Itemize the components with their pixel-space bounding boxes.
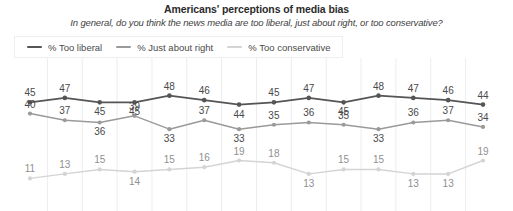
- line-swatch-icon: [27, 46, 42, 48]
- data-point[interactable]: [376, 93, 381, 98]
- data-point[interactable]: [481, 125, 485, 129]
- data-point-label: 44: [234, 109, 246, 120]
- data-point-label: 39: [129, 101, 141, 112]
- data-point-label: 47: [303, 83, 315, 94]
- data-point-label: 36: [94, 126, 106, 137]
- data-point-label: 36: [303, 107, 315, 118]
- data-point-label: 13: [303, 178, 315, 189]
- data-point[interactable]: [376, 127, 380, 131]
- data-point[interactable]: [307, 120, 311, 124]
- data-point-label: 15: [338, 154, 350, 165]
- data-point[interactable]: [98, 167, 102, 171]
- data-point[interactable]: [306, 96, 311, 101]
- legend-item-too-liberal[interactable]: % Too liberal: [27, 42, 102, 53]
- plot-area: 4547454548464445474548474644403736393337…: [0, 58, 513, 211]
- data-point[interactable]: [272, 161, 276, 165]
- data-point-label: 18: [268, 148, 280, 159]
- data-point-label: 34: [477, 112, 489, 123]
- data-point-label: 44: [477, 90, 489, 101]
- line-swatch-icon: [116, 46, 131, 48]
- data-point-label: 47: [408, 83, 420, 94]
- data-point[interactable]: [272, 100, 277, 105]
- data-point-label: 48: [373, 81, 385, 92]
- data-point-label: 37: [199, 105, 211, 116]
- data-point[interactable]: [341, 100, 346, 105]
- plot-svg: 4547454548464445474548474644403736393337…: [0, 58, 513, 211]
- data-point-label: 45: [268, 87, 280, 98]
- data-point[interactable]: [481, 158, 485, 162]
- legend-label-too-liberal: % Too liberal: [48, 42, 102, 53]
- data-point[interactable]: [28, 176, 32, 180]
- data-point[interactable]: [237, 102, 242, 107]
- data-point-label: 33: [234, 133, 246, 144]
- line-swatch-icon: [227, 46, 242, 48]
- data-point-label: 13: [443, 178, 455, 189]
- data-point[interactable]: [342, 123, 346, 127]
- data-point[interactable]: [28, 111, 32, 115]
- data-point-label: 40: [24, 99, 36, 110]
- data-point[interactable]: [446, 172, 450, 176]
- data-point[interactable]: [237, 127, 241, 131]
- data-point[interactable]: [167, 167, 171, 171]
- data-point-label: 35: [338, 110, 350, 121]
- legend-item-just-about-right[interactable]: % Just about right: [116, 42, 213, 53]
- media-bias-line-chart: Americans' perceptions of media bias In …: [0, 0, 513, 211]
- data-point-label: 19: [477, 146, 489, 157]
- data-point[interactable]: [97, 100, 102, 105]
- data-point[interactable]: [98, 120, 102, 124]
- data-point-label: 15: [164, 154, 176, 165]
- data-point-label: 33: [373, 133, 385, 144]
- data-point-label: 15: [373, 154, 385, 165]
- data-point[interactable]: [376, 167, 380, 171]
- data-point[interactable]: [411, 172, 415, 176]
- data-point[interactable]: [307, 172, 311, 176]
- legend-label-too-conservative: % Too conservative: [248, 42, 330, 53]
- data-point-label: 36: [408, 107, 420, 118]
- data-point[interactable]: [446, 118, 450, 122]
- chart-legend: % Too liberal % Just about right % Too c…: [14, 36, 343, 58]
- data-point[interactable]: [342, 167, 346, 171]
- data-point-label: 16: [199, 152, 211, 163]
- data-point-label: 37: [443, 105, 455, 116]
- data-point[interactable]: [202, 118, 206, 122]
- data-point-label: 19: [234, 146, 246, 157]
- data-point[interactable]: [63, 118, 67, 122]
- chart-title: Americans' perceptions of media bias: [0, 3, 513, 15]
- data-point-label: 46: [443, 85, 455, 96]
- legend-label-just-about-right: % Just about right: [137, 42, 213, 53]
- data-point-label: 35: [268, 110, 280, 121]
- data-point-label: 33: [164, 133, 176, 144]
- data-point[interactable]: [132, 170, 136, 174]
- data-point[interactable]: [167, 127, 171, 131]
- data-point[interactable]: [272, 123, 276, 127]
- data-point-label: 15: [94, 154, 106, 165]
- data-point[interactable]: [202, 165, 206, 169]
- data-point-label: 13: [408, 178, 420, 189]
- data-point-label: 47: [59, 83, 71, 94]
- data-point-label: 14: [129, 176, 141, 187]
- data-point[interactable]: [63, 172, 67, 176]
- data-point[interactable]: [237, 158, 241, 162]
- data-point-label: 45: [94, 106, 106, 117]
- data-point[interactable]: [202, 98, 207, 103]
- gridlines: [47, 58, 465, 211]
- data-point-label: 13: [59, 159, 71, 170]
- data-point[interactable]: [446, 98, 451, 103]
- data-point-label: 46: [199, 85, 211, 96]
- data-point[interactable]: [167, 93, 172, 98]
- data-point[interactable]: [63, 96, 68, 101]
- chart-subtitle: In general, do you think the news media …: [0, 17, 513, 28]
- data-point-label: 45: [24, 87, 36, 98]
- data-point[interactable]: [411, 96, 416, 101]
- data-point-label: 37: [59, 105, 71, 116]
- data-point[interactable]: [481, 102, 486, 107]
- data-point-label: 48: [164, 81, 176, 92]
- data-point[interactable]: [411, 120, 415, 124]
- legend-item-too-conservative[interactable]: % Too conservative: [227, 42, 330, 53]
- data-point-label: 11: [25, 163, 36, 174]
